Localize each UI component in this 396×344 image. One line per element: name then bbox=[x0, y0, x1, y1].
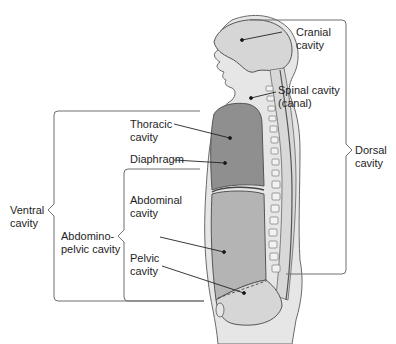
label-diaphragm: Diaphragm bbox=[130, 153, 184, 166]
label-spinal-cavity: Spinal cavity (canal) bbox=[278, 84, 340, 110]
label-pelvic-cavity: Pelvic cavity bbox=[130, 252, 159, 278]
label-line: cavity bbox=[355, 157, 387, 170]
label-line: cavity bbox=[130, 131, 172, 144]
label-line: cavity bbox=[130, 207, 182, 220]
label-line: cavity bbox=[130, 265, 159, 278]
label-line: Cranial bbox=[296, 26, 331, 39]
label-line: Thoracic bbox=[130, 118, 172, 131]
thoracic-cavity bbox=[211, 103, 264, 190]
label-line: (canal) bbox=[278, 97, 340, 110]
label-abdominal-cavity: Abdominal cavity bbox=[130, 194, 182, 220]
label-line: cavity bbox=[10, 217, 44, 230]
label-line: Pelvic bbox=[130, 252, 159, 265]
label-line: Ventral bbox=[10, 204, 44, 217]
label-line: pelvic cavity bbox=[61, 243, 120, 256]
label-line: Dorsal bbox=[355, 144, 387, 157]
label-abdominopelvic-cavity: Abdomino- pelvic cavity bbox=[61, 230, 120, 256]
label-line: cavity bbox=[296, 39, 331, 52]
label-cranial-cavity: Cranial cavity bbox=[296, 26, 331, 52]
label-dorsal-cavity: Dorsal cavity bbox=[355, 144, 387, 170]
label-ventral-cavity: Ventral cavity bbox=[10, 204, 44, 230]
brackets bbox=[48, 20, 352, 301]
label-thoracic-cavity: Thoracic cavity bbox=[130, 118, 172, 144]
label-line: Spinal cavity bbox=[278, 84, 340, 97]
body-cavities-diagram bbox=[0, 0, 396, 344]
label-line: Abdominal bbox=[130, 194, 182, 207]
label-line: Abdomino- bbox=[61, 230, 120, 243]
label-line: Diaphragm bbox=[130, 153, 184, 166]
